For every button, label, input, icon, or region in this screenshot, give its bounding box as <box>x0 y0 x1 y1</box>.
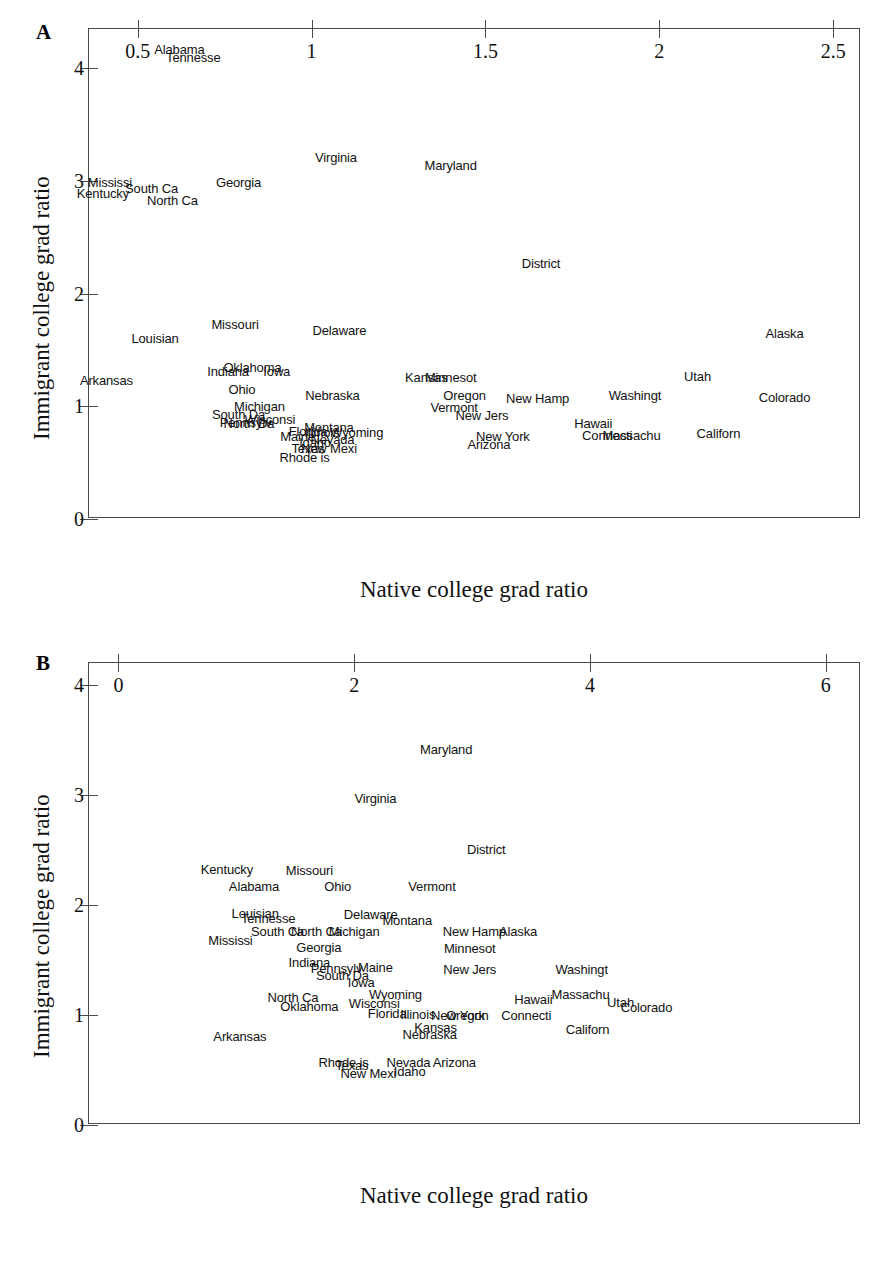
panel-b: B012340246MarylandVirginiaDistrictKentuc… <box>0 0 888 1275</box>
data-point-label: Missouri <box>286 863 333 876</box>
data-point-label: Vermont <box>408 880 455 893</box>
x-axis-tick <box>354 663 355 672</box>
data-point-label: Virginia <box>354 792 396 805</box>
y-axis-tick-mirror <box>89 685 98 686</box>
data-point-label: Tennesse <box>241 912 295 925</box>
data-point-label: Ohio <box>324 880 351 893</box>
data-point-label: Oklahoma <box>280 1000 338 1013</box>
x-axis-tick-mirror <box>118 654 119 663</box>
data-point-label: Massachu <box>551 988 609 1001</box>
x-axis-tick-mirror <box>590 654 591 663</box>
data-point-label: Alaska <box>499 925 537 938</box>
data-point-label: Maryland <box>420 742 472 755</box>
x-axis-tick-mirror <box>354 654 355 663</box>
x-axis-tick <box>590 663 591 672</box>
panel-letter: B <box>36 653 50 674</box>
data-point-label: New Hamp <box>443 925 506 938</box>
x-axis-tick-label: 4 <box>585 675 595 695</box>
data-point-label: Alabama <box>229 880 279 893</box>
data-point-label: Washingt <box>555 962 608 975</box>
x-axis-tick-label: 0 <box>113 675 123 695</box>
data-point-label: Michigan <box>329 925 380 938</box>
x-axis-tick-label: 6 <box>821 675 831 695</box>
data-point-label: Hawaii <box>514 992 552 1005</box>
y-axis-tick-mirror <box>89 1125 98 1126</box>
y-axis-tick-mirror <box>89 795 98 796</box>
y-axis-tick-mirror <box>89 905 98 906</box>
y-axis-title: Immigrant college grad ratio <box>30 794 53 1058</box>
y-axis-tick-label: 1 <box>74 1005 84 1025</box>
data-point-label: Connecti <box>501 1009 551 1022</box>
x-axis-tick-label: 2 <box>349 675 359 695</box>
data-point-label: Nebraska <box>402 1027 456 1040</box>
data-point-label: New Jers <box>443 962 496 975</box>
data-point-label: Arizona <box>433 1056 476 1069</box>
data-point-label: Mississi <box>208 934 252 947</box>
x-axis-tick-mirror <box>826 654 827 663</box>
plot-area: 012340246MarylandVirginiaDistrictKentuck… <box>88 662 860 1124</box>
data-point-label: Minnesot <box>444 941 496 954</box>
data-point-label: Montana <box>382 914 432 927</box>
data-point-label: Georgia <box>296 940 341 953</box>
data-point-label: District <box>467 842 506 855</box>
y-axis-tick-label: 2 <box>74 895 84 915</box>
data-point-label: Californ <box>566 1023 610 1036</box>
x-axis-tick <box>118 663 119 672</box>
data-point-label: Arkansas <box>213 1029 266 1042</box>
x-axis-tick <box>826 663 827 672</box>
data-point-label: Colorado <box>621 1001 673 1014</box>
data-point-label: Idaho <box>394 1065 426 1078</box>
data-point-label: Kentucky <box>201 862 253 875</box>
y-axis-tick-label: 3 <box>74 785 84 805</box>
data-point-label: New Mexi <box>340 1067 396 1080</box>
y-axis-tick-mirror <box>89 1015 98 1016</box>
y-axis-tick-label: 0 <box>74 1115 84 1135</box>
x-axis-title: Native college grad ratio <box>88 1184 860 1207</box>
y-axis-tick-label: 4 <box>74 675 84 695</box>
